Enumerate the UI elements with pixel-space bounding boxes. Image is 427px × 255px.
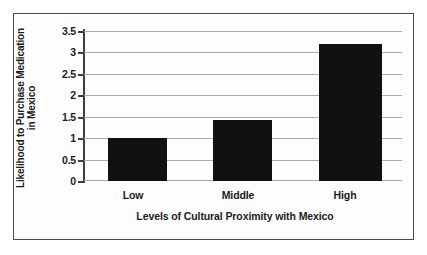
bar-middle [213, 120, 272, 181]
gridline-3-5 [84, 31, 402, 32]
bar-low [108, 138, 167, 181]
y-tick-label-0: 0 [50, 176, 76, 186]
chart-figure: 3.5 3 2.5 2 1.5 1 0.5 0 Low Middle [0, 0, 427, 255]
bar-high [319, 44, 382, 181]
y-tick-label-3: 3 [50, 47, 76, 57]
y-tick-label-1-5: 1.5 [50, 112, 76, 122]
x-tick-label-high: High [290, 189, 400, 201]
y-tick-label-3-5: 3.5 [50, 26, 76, 36]
y-axis-title-line-1: Likelihood to Purchase Medication [14, 28, 25, 188]
x-axis-title: Levels of Cultural Proximity with Mexico [60, 210, 410, 222]
plot-area [84, 31, 402, 181]
y-tick-label-0-5: 0.5 [50, 155, 76, 165]
y-axis-title: Likelihood to Purchase Medication in Mex… [11, 21, 41, 196]
x-tick-label-low: Low [78, 189, 188, 201]
y-tick-label-2: 2 [50, 90, 76, 100]
y-tick-label-1: 1 [50, 133, 76, 143]
x-tick-label-middle: Middle [183, 189, 293, 201]
y-axis-title-line-2: in Mexico [26, 28, 38, 188]
y-tick-label-2-5: 2.5 [50, 69, 76, 79]
